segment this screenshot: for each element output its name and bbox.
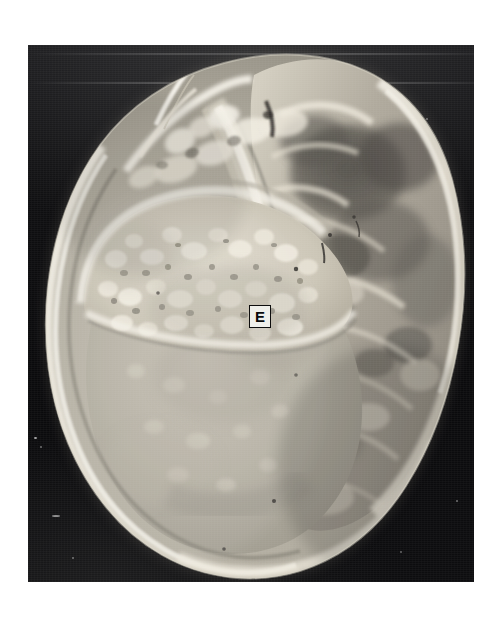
specimen-photograph: E xyxy=(28,45,474,582)
figure-root: E xyxy=(0,0,494,620)
specimen-label-e: E xyxy=(249,305,271,328)
